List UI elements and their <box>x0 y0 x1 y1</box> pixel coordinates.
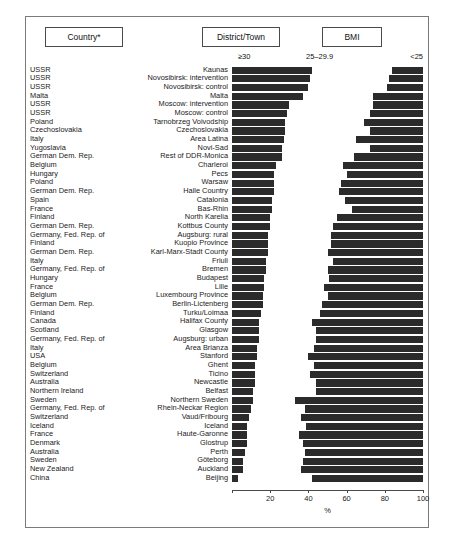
bar-segment-overweight <box>259 319 312 326</box>
bar-segment-normal <box>305 449 423 456</box>
bar-segment-obese <box>232 197 272 204</box>
bar-segment-obese <box>232 405 251 412</box>
bar-segment-overweight <box>263 292 328 299</box>
bar-segment-overweight <box>247 440 302 447</box>
bar-segment-overweight <box>312 67 392 74</box>
stacked-bar <box>232 101 423 108</box>
table-row: ChinaBeijing <box>0 474 450 483</box>
bar-segment-normal <box>337 214 423 221</box>
x-axis-tick <box>347 490 348 493</box>
stacked-bar <box>232 266 423 273</box>
legend-label-obese: ≥30 <box>238 52 250 61</box>
bar-segment-overweight <box>303 93 374 100</box>
stacked-bar <box>232 371 423 378</box>
bar-segment-obese <box>232 266 266 273</box>
bar-segment-normal <box>331 232 423 239</box>
bar-segment-normal <box>328 292 424 299</box>
bar-segment-normal <box>347 171 423 178</box>
bar-segment-overweight <box>285 119 363 126</box>
bar-segment-obese <box>232 362 255 369</box>
column-header-district: District/Town <box>202 27 280 47</box>
bar-segment-normal <box>339 188 423 195</box>
stacked-bar <box>232 319 423 326</box>
stacked-bar <box>232 249 423 256</box>
bar-segment-obese <box>232 249 268 256</box>
bar-segment-overweight <box>284 136 357 143</box>
bar-segment-obese <box>232 75 310 82</box>
bar-segment-obese <box>232 440 247 447</box>
stacked-bar <box>232 353 423 360</box>
bar-segment-overweight <box>264 275 329 282</box>
row-district: Karl-Marx-Stadt County <box>100 248 228 257</box>
bar-segment-obese <box>232 136 284 143</box>
stacked-bar <box>232 336 423 343</box>
bar-segment-overweight <box>259 336 316 343</box>
bar-segment-obese <box>232 171 274 178</box>
bar-segment-obese <box>232 379 255 386</box>
bar-segment-overweight <box>249 414 301 421</box>
stacked-bar <box>232 345 423 352</box>
bar-segment-obese <box>232 327 259 334</box>
x-axis-tick-label: 100 <box>417 494 430 503</box>
row-district: Charleroi <box>100 161 228 170</box>
stacked-bar <box>232 188 423 195</box>
bar-segment-obese <box>232 414 249 421</box>
bar-segment-normal <box>322 301 423 308</box>
bar-segment-overweight <box>255 371 310 378</box>
stacked-bar <box>232 258 423 265</box>
stacked-bar <box>232 136 423 143</box>
bar-segment-overweight <box>276 162 343 169</box>
bar-segment-obese <box>232 292 263 299</box>
bar-segment-normal <box>333 223 423 230</box>
bar-segment-obese <box>232 458 243 465</box>
bar-segment-overweight <box>287 110 369 117</box>
bar-segment-normal <box>328 266 424 273</box>
stacked-bar <box>232 397 423 404</box>
bar-segment-overweight <box>272 197 345 204</box>
stacked-bar <box>232 93 423 100</box>
bar-segment-obese <box>232 223 270 230</box>
bar-segment-normal <box>316 327 423 334</box>
bar-segment-normal <box>328 249 424 256</box>
bar-segment-overweight <box>243 458 302 465</box>
bar-segment-obese <box>232 353 257 360</box>
bar-segment-obese <box>232 431 247 438</box>
bar-segment-normal <box>312 475 423 482</box>
bar-segment-normal <box>314 362 423 369</box>
stacked-bar <box>232 206 423 213</box>
bar-segment-normal <box>345 197 423 204</box>
bar-segment-obese <box>232 423 247 430</box>
stacked-bar <box>232 67 423 74</box>
stacked-bar <box>232 379 423 386</box>
row-district: Novosibirsk: control <box>100 83 228 92</box>
legend-label-normal: <25 <box>410 52 423 61</box>
bar-segment-overweight <box>270 223 333 230</box>
stacked-bar <box>232 458 423 465</box>
bar-segment-overweight <box>259 327 316 334</box>
bar-segment-obese <box>232 466 243 473</box>
bar-segment-normal <box>389 75 423 82</box>
stacked-bar <box>232 153 423 160</box>
x-axis-tick-label: 60 <box>342 494 350 503</box>
x-axis-tick <box>308 490 309 493</box>
stacked-bar <box>232 292 423 299</box>
bar-segment-overweight <box>264 284 323 291</box>
row-district: Beijing <box>100 474 228 483</box>
bar-segment-normal <box>329 275 423 282</box>
legend-label-overweight: 25–29.9 <box>306 52 333 61</box>
bar-segment-normal <box>341 180 423 187</box>
bar-segment-overweight <box>266 266 327 273</box>
bar-segment-normal <box>343 162 423 169</box>
stacked-bar <box>232 223 423 230</box>
bar-segment-normal <box>308 353 423 360</box>
bar-segment-overweight <box>257 353 309 360</box>
bar-segment-normal <box>301 414 423 421</box>
stacked-bar <box>232 275 423 282</box>
bmi-legend: ≥30 25–29.9 <25 <box>232 52 423 64</box>
bar-segment-normal <box>373 101 423 108</box>
stacked-bar <box>232 388 423 395</box>
bar-segment-normal <box>316 388 423 395</box>
stacked-bar <box>232 232 423 239</box>
bar-segment-overweight <box>247 423 306 430</box>
stacked-bar <box>232 431 423 438</box>
